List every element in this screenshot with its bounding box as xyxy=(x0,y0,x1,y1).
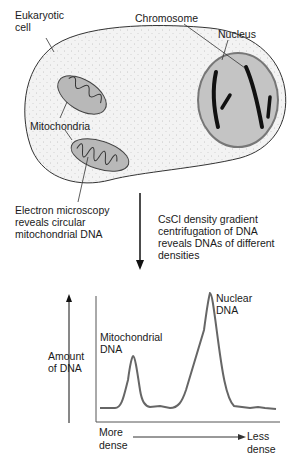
y-axis-label: Amount of DNA xyxy=(48,350,84,374)
annotation-mitochondrial-dna: Mitochondrial DNA xyxy=(100,331,162,355)
label-nucleus: Nucleus xyxy=(218,28,256,40)
process-arrow xyxy=(136,193,144,270)
x-label-less-dense: Lessdense xyxy=(247,430,276,456)
nucleus xyxy=(198,53,278,147)
plot-axes xyxy=(96,296,280,422)
density-direction-arrow xyxy=(133,434,246,440)
label-eukaryotic-cell: Eukaryotic cell xyxy=(15,9,64,33)
x-label-more-dense: Moredense xyxy=(99,426,128,452)
label-process: CsCl density gradient centrifugation of … xyxy=(158,213,275,261)
label-chromosome: Chromosome xyxy=(135,12,198,24)
annotation-nuclear-dna: Nuclear DNA xyxy=(216,292,252,316)
label-electron-microscopy: Electron microscopy reveals circular mit… xyxy=(15,204,110,240)
label-mitochondria: Mitochondria xyxy=(30,120,90,132)
